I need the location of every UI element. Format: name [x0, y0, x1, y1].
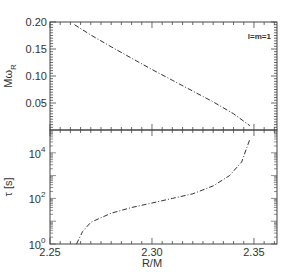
y-tick-exponent: 2	[41, 190, 46, 199]
y-tick-label: 10	[29, 148, 41, 160]
y-tick-label: 0.20	[26, 16, 47, 28]
bottom-plot-frame	[50, 130, 277, 244]
y-tick-exponent: 4	[41, 145, 46, 154]
mode-annotation: l=m=1	[248, 32, 272, 41]
y-tick-label: 0.05	[26, 97, 47, 109]
x-tick-label: 2.25	[39, 246, 60, 258]
timescale-curve	[77, 139, 250, 244]
chart-figure: 0.050.100.150.20l=m=1 1001021042.252.302…	[0, 0, 293, 272]
y-tick-label: 0.10	[26, 70, 47, 82]
bottom-panel: 1001021042.252.302.35	[29, 130, 277, 258]
axis-labels: MωRτ [s]R/M	[2, 64, 162, 269]
y-tick-exponent: 0	[41, 236, 46, 245]
y-tick-label: 10	[29, 193, 41, 205]
top-y-axis-label: MωR	[2, 64, 18, 88]
y-tick-label: 0.15	[26, 43, 47, 55]
x-axis-label: R/M	[142, 257, 162, 269]
x-tick-label: 2.35	[243, 246, 264, 258]
bottom-y-axis-label: τ [s]	[2, 177, 14, 196]
frequency-curve	[75, 25, 250, 126]
